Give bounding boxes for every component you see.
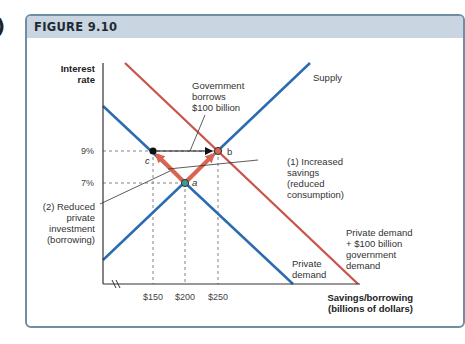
private-demand-label-2: demand [292,269,326,280]
total-demand-curve [125,63,358,284]
total-demand-label-1: Private demand [346,227,413,238]
reduced-investment-label-1: (2) Reduced [43,201,95,212]
point-c-label: c [145,155,150,166]
x-axis-title-2: (billions of dollars) [328,303,413,314]
point-b-label: b [227,146,232,157]
point-a-label: a [192,177,197,188]
total-demand-label-4: demand [346,260,380,271]
tick-150: $150 [143,292,163,302]
gov-borrows-label-2: borrows [192,91,226,102]
gov-borrows-label-1: Government [192,80,245,91]
private-demand-label-1: Private [292,258,322,269]
gov-borrows-label-3: $100 billion [192,102,240,113]
tick-200: $200 [175,292,195,302]
supply-label: Supply [313,72,342,83]
point-a [181,179,188,186]
point-b [214,147,221,154]
arrow-a-to-b [185,155,213,183]
tick-9pct: 9% [81,146,94,156]
y-axis-title-2: rate [78,74,95,85]
reduced-investment-label-4: (borrowing) [47,234,95,245]
tick-250: $250 [208,292,228,302]
total-demand-label-2: + $100 billion [346,238,402,249]
total-demand-label-3: government [346,249,397,260]
tick-7pct: 7% [81,178,94,188]
x-axis-title-1: Savings/borrowing [327,292,413,303]
point-c [149,147,156,154]
reduced-investment-label-2: private [66,212,95,223]
increased-savings-label-4: consumption) [287,189,344,200]
guide-lines [103,151,218,284]
reduced-investment-label-3: investment [49,223,95,234]
increased-savings-label-1: (1) Increased [287,156,343,167]
increased-savings-label-2: savings [287,167,319,178]
leader-increased-savings [168,160,258,169]
leader-gov-borrows [190,115,205,151]
leader-reduced-investment [100,171,170,204]
y-axis-title-1: Interest [61,63,96,74]
increased-savings-label-3: (reduced [287,178,325,189]
